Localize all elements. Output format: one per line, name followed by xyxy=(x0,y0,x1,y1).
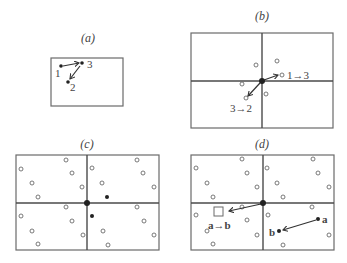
hollow-point xyxy=(240,157,244,161)
panel-title: (b) xyxy=(255,9,269,23)
arrow xyxy=(63,63,79,66)
arrow xyxy=(283,220,316,230)
panel-b: (b)1→33→2 xyxy=(191,9,333,128)
solid-point xyxy=(105,195,109,199)
point-label: b xyxy=(269,226,275,238)
hollow-point xyxy=(152,233,156,237)
hollow-point xyxy=(101,229,105,233)
point-label: 2 xyxy=(70,81,76,93)
hollow-point xyxy=(266,213,270,217)
hollow-point xyxy=(135,205,139,209)
arrow xyxy=(264,75,278,80)
hollow-point xyxy=(316,171,320,175)
empty-box-marker xyxy=(214,207,223,216)
arrow xyxy=(70,66,80,79)
point-label: 1 xyxy=(55,67,61,79)
solid-point xyxy=(90,214,94,218)
panel-title: (a) xyxy=(81,31,95,45)
solid-point xyxy=(84,200,90,206)
hollow-point xyxy=(36,195,40,199)
hollow-point xyxy=(135,158,139,162)
hollow-point xyxy=(310,205,314,209)
hollow-point xyxy=(205,181,209,185)
hollow-point xyxy=(81,233,85,237)
panels: (a)132(b)1→33→2(c)(d)a→bab xyxy=(16,9,334,250)
hollow-point xyxy=(255,185,259,189)
hollow-point xyxy=(281,195,285,199)
hollow-point xyxy=(19,214,23,218)
hollow-point xyxy=(70,219,74,223)
panel-d: (d)a→bab xyxy=(191,137,334,250)
hollow-point xyxy=(254,63,258,67)
hollow-point xyxy=(211,195,215,199)
hollow-point xyxy=(194,213,198,217)
hollow-point xyxy=(90,166,94,170)
hollow-point xyxy=(245,171,249,175)
hollow-point xyxy=(275,181,279,185)
solid-point xyxy=(80,61,84,65)
hollow-point xyxy=(30,181,34,185)
hollow-point xyxy=(141,171,145,175)
hollow-point xyxy=(152,185,156,189)
hollow-point xyxy=(70,171,74,175)
hollow-point xyxy=(327,185,331,189)
hollow-point xyxy=(281,243,285,247)
arrow xyxy=(229,204,261,211)
panel-a: (a)132 xyxy=(51,31,123,106)
hollow-point xyxy=(244,96,248,100)
hollow-point xyxy=(255,233,259,237)
hollow-point xyxy=(142,219,146,223)
quadtree-figure: (a)132(b)1→33→2(c)(d)a→bab xyxy=(0,0,347,263)
hollow-point xyxy=(211,242,215,246)
point-label: 3 xyxy=(87,58,93,70)
point-label: 1→3 xyxy=(287,69,310,81)
solid-point xyxy=(259,78,265,84)
point-label: a→b xyxy=(208,219,231,231)
point-label: a xyxy=(322,213,328,225)
hollow-point xyxy=(280,73,284,77)
hollow-point xyxy=(311,157,315,161)
hollow-point xyxy=(36,242,40,246)
hollow-point xyxy=(30,229,34,233)
hollow-point xyxy=(265,166,269,170)
hollow-point xyxy=(275,59,279,63)
hollow-point xyxy=(245,218,249,222)
panel-c: (c) xyxy=(16,137,159,250)
hollow-point xyxy=(64,158,68,162)
arrow xyxy=(248,83,260,96)
hollow-point xyxy=(194,166,198,170)
panel-title: (c) xyxy=(80,137,93,151)
panel-title: (d) xyxy=(255,137,269,151)
hollow-point xyxy=(64,205,68,209)
hollow-point xyxy=(240,82,244,86)
solid-point xyxy=(260,200,266,206)
hollow-point xyxy=(19,167,23,171)
solid-point xyxy=(277,229,281,233)
hollow-point xyxy=(327,233,331,237)
solid-point xyxy=(316,217,320,221)
hollow-point xyxy=(264,92,268,96)
hollow-point xyxy=(80,185,84,189)
point-label: 3→2 xyxy=(230,102,252,114)
hollow-point xyxy=(106,243,110,247)
hollow-point xyxy=(100,181,104,185)
